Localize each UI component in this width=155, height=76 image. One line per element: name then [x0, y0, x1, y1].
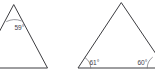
geometry-figure: 59° 61° 60°	[0, 0, 155, 76]
angle-label-59: 59°	[15, 24, 25, 31]
left-triangle-angle-arc	[7, 20, 22, 22]
left-triangle-outline	[0, 5, 47, 68]
angle-label-61: 61°	[90, 59, 100, 66]
left-triangle: 59°	[0, 5, 47, 68]
right-triangle-right-angle-arc	[147, 57, 152, 68]
angle-label-60: 60°	[138, 59, 148, 66]
right-triangle: 61° 60°	[78, 3, 155, 68]
figure-canvas: 59° 61° 60°	[0, 0, 155, 76]
